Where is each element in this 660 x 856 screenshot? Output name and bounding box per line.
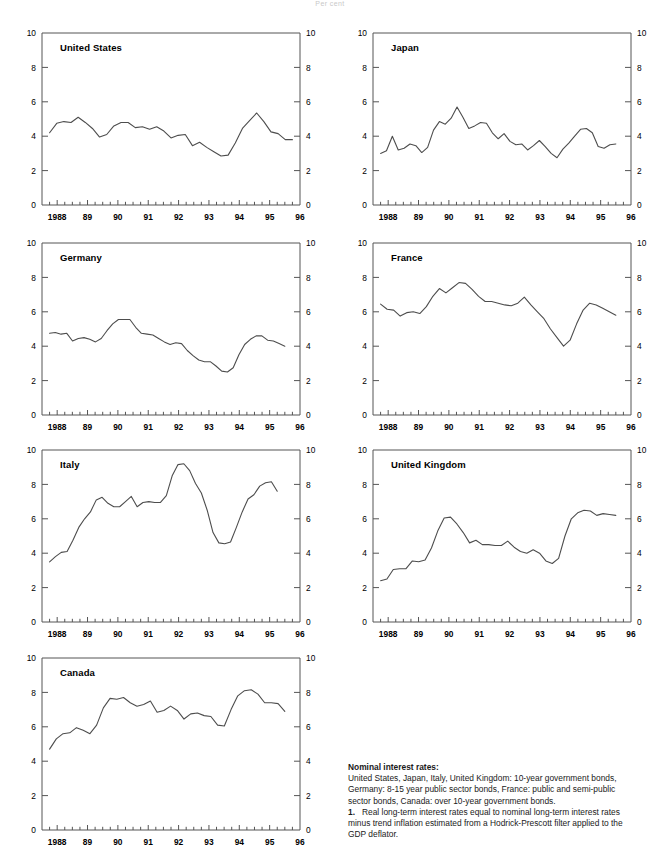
- caption-footnote-line-1: 1. Real long-term interest rates equal t…: [348, 807, 648, 818]
- x-axis-label: 93: [204, 837, 214, 847]
- plot-frame: [373, 450, 631, 622]
- y-axis-label-left: 8: [362, 63, 367, 73]
- x-axis-label: 94: [566, 212, 576, 222]
- x-axis-label: 1988: [48, 422, 67, 432]
- y-axis-label-right: 6: [637, 307, 642, 317]
- x-axis-label: 90: [113, 212, 123, 222]
- plot-frame: [373, 243, 631, 415]
- y-axis-label-left: 4: [362, 341, 367, 351]
- x-axis-label: 95: [265, 212, 275, 222]
- y-axis-label-right: 8: [306, 63, 311, 73]
- y-axis-label-left: 0: [31, 410, 36, 420]
- y-axis-label-right: 0: [637, 617, 642, 627]
- y-axis-label-left: 6: [31, 97, 36, 107]
- y-axis-label-right: 2: [637, 583, 642, 593]
- y-axis-label-left: 8: [31, 273, 36, 283]
- chart-title-united-kingdom: United Kingdom: [391, 459, 466, 470]
- y-axis-label-right: 10: [306, 445, 316, 455]
- x-axis-label: 90: [444, 422, 454, 432]
- chart-svg-canada: 0022446688101019888990919293949596: [16, 650, 326, 856]
- x-axis-label: 93: [204, 629, 214, 639]
- x-axis-label: 91: [475, 422, 485, 432]
- y-axis-label-left: 10: [27, 28, 37, 38]
- chart-svg-japan: 0022446688101019888990919293949596: [347, 25, 657, 231]
- x-axis-label: 89: [414, 629, 424, 639]
- y-axis-label-left: 2: [362, 166, 367, 176]
- chart-title-japan: Japan: [391, 42, 419, 53]
- y-axis-label-left: 8: [362, 480, 367, 490]
- y-axis-label-left: 8: [31, 688, 36, 698]
- x-axis-label: 96: [626, 629, 636, 639]
- y-axis-label-right: 2: [637, 166, 642, 176]
- caption-footnote-line-2: minus trend inflation estimated from a H…: [348, 818, 648, 829]
- x-axis-label: 94: [235, 422, 245, 432]
- y-axis-label-left: 10: [27, 445, 37, 455]
- y-axis-label-right: 10: [306, 28, 316, 38]
- chart-panel-canada: 0022446688101019888990919293949596Canada: [16, 650, 326, 856]
- y-axis-label-left: 2: [31, 791, 36, 801]
- y-axis-label-right: 10: [637, 238, 647, 248]
- y-axis-label-right: 4: [306, 756, 311, 766]
- y-axis-label-left: 0: [362, 617, 367, 627]
- series-line-germany: [50, 320, 285, 372]
- chart-svg-united-states: 0022446688101019888990919293949596: [16, 25, 326, 231]
- y-axis-label-left: 10: [358, 28, 368, 38]
- x-axis-label: 95: [265, 837, 275, 847]
- y-axis-label-right: 8: [637, 480, 642, 490]
- y-axis-label-right: 10: [306, 653, 316, 663]
- series-line-japan: [381, 107, 616, 158]
- x-axis-label: 91: [475, 629, 485, 639]
- y-axis-label-right: 10: [637, 445, 647, 455]
- y-axis-label-left: 8: [31, 63, 36, 73]
- x-axis-label: 92: [174, 629, 184, 639]
- y-axis-label-left: 10: [358, 238, 368, 248]
- chart-title-united-states: United States: [60, 42, 122, 53]
- chart-title-italy: Italy: [60, 459, 80, 470]
- figure-page: Per cent 0022446688101019888990919293949…: [0, 0, 660, 856]
- y-axis-label-right: 4: [306, 548, 311, 558]
- chart-svg-italy: 0022446688101019888990919293949596: [16, 442, 326, 648]
- x-axis-label: 95: [596, 629, 606, 639]
- y-axis-label-right: 0: [637, 200, 642, 210]
- y-axis-label-left: 6: [31, 722, 36, 732]
- y-axis-label-right: 6: [637, 97, 642, 107]
- y-axis-label-left: 0: [362, 200, 367, 210]
- y-axis-label-right: 6: [306, 722, 311, 732]
- y-axis-label-right: 2: [306, 791, 311, 801]
- y-axis-label-right: 8: [306, 273, 311, 283]
- x-axis-label: 93: [204, 212, 214, 222]
- x-axis-label: 93: [535, 422, 545, 432]
- chart-panel-italy: 0022446688101019888990919293949596Italy: [16, 442, 326, 648]
- y-axis-label-left: 0: [31, 200, 36, 210]
- y-axis-label-right: 8: [306, 688, 311, 698]
- y-axis-label-right: 0: [306, 410, 311, 420]
- y-axis-label-left: 6: [31, 514, 36, 524]
- x-axis-label: 94: [235, 212, 245, 222]
- x-axis-label: 90: [113, 837, 123, 847]
- chart-title-germany: Germany: [60, 252, 102, 263]
- x-axis-label: 95: [265, 629, 275, 639]
- y-axis-label-left: 2: [31, 166, 36, 176]
- chart-panel-france: 0022446688101019888990919293949596France: [347, 235, 657, 441]
- x-axis-label: 1988: [48, 837, 67, 847]
- x-axis-label: 89: [414, 422, 424, 432]
- x-axis-label: 91: [144, 629, 154, 639]
- x-axis-label: 91: [144, 837, 154, 847]
- x-axis-label: 92: [505, 629, 515, 639]
- y-axis-label-right: 2: [306, 583, 311, 593]
- x-axis-label: 96: [626, 422, 636, 432]
- chart-panel-japan: 0022446688101019888990919293949596Japan: [347, 25, 657, 231]
- y-axis-label-right: 6: [306, 307, 311, 317]
- footnote-text-1: Real long-term interest rates equal to n…: [362, 807, 620, 817]
- y-axis-label-left: 2: [362, 376, 367, 386]
- x-axis-label: 89: [83, 629, 93, 639]
- caption-heading: Nominal interest rates:: [348, 762, 648, 773]
- x-axis-label: 91: [144, 422, 154, 432]
- x-axis-label: 92: [505, 212, 515, 222]
- x-axis-label: 94: [566, 629, 576, 639]
- series-line-france: [381, 283, 616, 347]
- x-axis-label: 1988: [379, 422, 398, 432]
- x-axis-label: 92: [174, 422, 184, 432]
- y-axis-label-right: 8: [306, 480, 311, 490]
- x-axis-label: 93: [204, 422, 214, 432]
